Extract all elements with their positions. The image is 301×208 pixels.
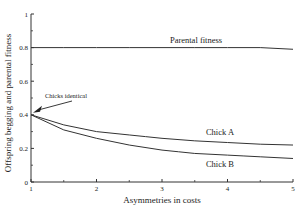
y-tick-label: 1 bbox=[25, 11, 29, 19]
arrowhead-icon bbox=[33, 106, 42, 113]
x-tick-label: 3 bbox=[160, 185, 164, 193]
y-axis-label: Offspring begging and parental fitness bbox=[3, 33, 13, 172]
y-tick-label: 0.8 bbox=[19, 44, 28, 52]
x-tick-label: 5 bbox=[291, 185, 295, 193]
annotation-arrow bbox=[39, 101, 72, 110]
y-tick-label: 0.2 bbox=[19, 145, 28, 153]
x-tick-label: 1 bbox=[29, 185, 33, 193]
series-label: Chick B bbox=[206, 159, 234, 169]
series-line-chick-b bbox=[31, 115, 293, 159]
x-tick-label: 2 bbox=[95, 185, 99, 193]
series-line-chick-a bbox=[31, 115, 293, 145]
x-axis-label: Asymmetries in costs bbox=[123, 195, 201, 205]
series-label: Chick A bbox=[206, 127, 235, 137]
series-label: Parental fitness bbox=[170, 35, 222, 45]
axes: 1234500.20.40.60.81 bbox=[19, 11, 295, 194]
series-lines bbox=[31, 48, 293, 159]
series-line-parental-fitness bbox=[31, 48, 293, 50]
y-tick-label: 0.4 bbox=[19, 111, 28, 119]
labels: Asymmetries in costsOffspring begging an… bbox=[3, 33, 235, 205]
x-tick-label: 4 bbox=[226, 185, 230, 193]
chart: 1234500.20.40.60.81 Asymmetries in costs… bbox=[0, 0, 301, 208]
y-tick-label: 0.6 bbox=[19, 78, 28, 86]
annotation-label: Chicks identical bbox=[45, 92, 87, 99]
y-tick-label: 0 bbox=[25, 179, 29, 187]
